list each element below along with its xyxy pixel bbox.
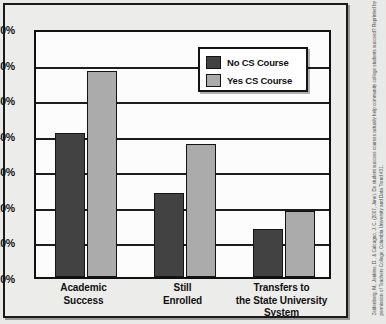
legend-item-yes-cs-course[interactable]: Yes CS Course (206, 72, 300, 88)
category-label-line: the State University (212, 295, 352, 308)
bar-no-cs-course-1 (154, 193, 184, 277)
legend-label: No CS Course (227, 57, 288, 68)
legend-item-no-cs-course[interactable]: No CS Course (206, 54, 300, 70)
bar-yes-cs-course-1 (186, 144, 216, 277)
chart-legend: No CS CourseYes CS Course (198, 47, 308, 92)
y-tick-label-60: 60% (0, 60, 15, 72)
category-label-2: Transfers tothe State UniversitySystem (212, 282, 352, 320)
legend-swatch-icon (206, 56, 221, 69)
citation-sidebar: Zeidenberg, M., Jenkins, D., & Calcagno,… (352, 0, 386, 324)
bar-no-cs-course-0 (55, 133, 85, 277)
figure-container: 70%60%50%40%30%20%10%0% AcademicSuccessS… (0, 0, 386, 324)
y-tick-label-40: 40% (0, 131, 15, 143)
bar-yes-cs-course-0 (87, 71, 117, 277)
gridline-50 (36, 102, 329, 104)
y-tick-label-50: 50% (0, 95, 15, 107)
y-tick-label-20: 20% (0, 202, 15, 214)
chart-card: 70%60%50%40%30%20%10%0% AcademicSuccessS… (3, 3, 348, 318)
category-label-line: Transfers to (212, 282, 352, 295)
y-tick-label-10: 10% (0, 237, 15, 249)
y-tick-label-30: 30% (0, 166, 15, 178)
citation-text: Zeidenberg, M., Jenkins, D., & Calcagno,… (372, 0, 385, 316)
legend-label: Yes CS Course (227, 75, 292, 86)
legend-swatch-icon (206, 74, 221, 87)
bar-yes-cs-course-2 (285, 211, 315, 277)
bar-no-cs-course-2 (253, 229, 283, 277)
category-label-line: System (212, 307, 352, 320)
y-tick-label-70: 70% (0, 24, 15, 36)
